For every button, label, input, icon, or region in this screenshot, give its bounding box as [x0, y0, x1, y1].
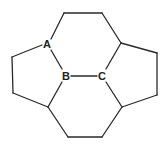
- ring-structure-diagram: A B C: [0, 0, 164, 146]
- bond-lowerleft-b: [48, 82, 62, 107]
- bond-lowerleft-bottomleft: [48, 107, 68, 137]
- atom-label-b: B: [62, 70, 70, 82]
- bond-rightbottom-lowerright: [122, 95, 157, 107]
- bond-rightupper-righttop: [121, 43, 157, 53]
- bond-leftbottom-lowerleft: [13, 93, 48, 107]
- bonds: [12, 13, 157, 137]
- atom-label-c: C: [98, 70, 106, 82]
- atom-label-a: A: [43, 38, 51, 50]
- bond-lefttop-leftbottom: [12, 57, 13, 93]
- bond-a-b: [51, 50, 62, 69]
- bond-topright-rightupper: [102, 13, 121, 43]
- bond-a-topleft: [51, 13, 64, 39]
- bond-bottomright-lowerright: [102, 107, 122, 137]
- bond-lowerright-c: [106, 82, 122, 107]
- bond-a-lefttop: [12, 45, 42, 57]
- bond-rightupper-c: [106, 43, 121, 69]
